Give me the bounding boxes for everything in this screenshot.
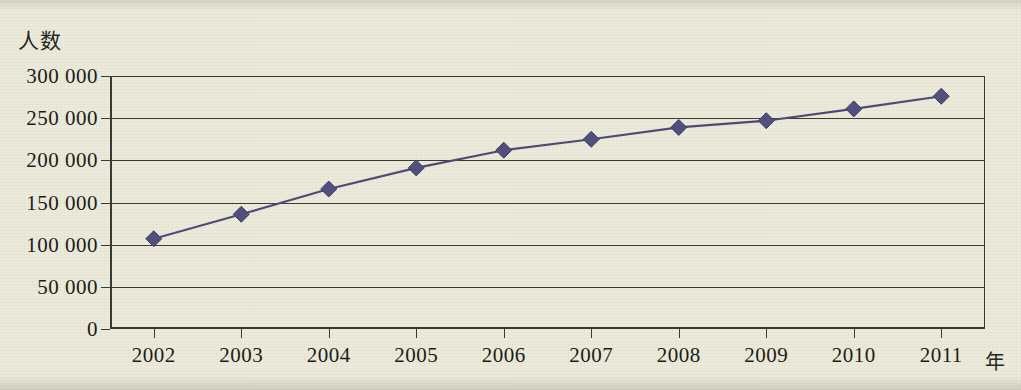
x-axis-label: 2010 <box>832 343 876 368</box>
data-point-marker <box>321 181 337 197</box>
y-axis-label: 50 000 <box>37 274 98 299</box>
data-point-marker <box>846 101 862 117</box>
y-axis-label: 0 <box>87 317 98 342</box>
x-axis-label: 2006 <box>482 343 526 368</box>
chart-page: 人数 年 050 000100 000150 000200 000250 000… <box>0 0 1021 390</box>
y-axis-label: 300 000 <box>26 64 98 89</box>
y-axis-tick <box>101 203 110 204</box>
x-axis-tick <box>854 329 855 338</box>
x-axis-label: 2002 <box>132 343 176 368</box>
data-point-marker <box>496 142 512 158</box>
data-point-marker <box>933 88 949 104</box>
x-axis-tick <box>679 329 680 338</box>
y-axis-tick <box>101 118 110 119</box>
y-axis-label: 100 000 <box>26 232 98 257</box>
x-axis-label: 2003 <box>219 343 263 368</box>
x-axis-tick <box>416 329 417 338</box>
y-axis-tick <box>101 329 110 330</box>
y-axis-tick <box>101 287 110 288</box>
x-axis-tick <box>504 329 505 338</box>
x-axis-label: 2004 <box>307 343 351 368</box>
y-axis-title: 人数 <box>18 24 62 54</box>
x-axis-tick <box>154 329 155 338</box>
data-point-marker <box>233 206 249 222</box>
y-axis-tick <box>101 160 110 161</box>
x-axis-label: 2007 <box>569 343 613 368</box>
x-axis-label: 2009 <box>744 343 788 368</box>
data-point-marker <box>146 231 162 247</box>
data-series <box>110 76 985 329</box>
y-axis-label: 150 000 <box>26 190 98 215</box>
plot-area: 050 000100 000150 000200 000250 000300 0… <box>110 76 985 329</box>
x-axis-label: 2008 <box>657 343 701 368</box>
data-point-marker <box>408 160 424 176</box>
x-axis-tick <box>329 329 330 338</box>
y-axis-label: 250 000 <box>26 106 98 131</box>
x-axis-tick <box>241 329 242 338</box>
data-point-marker <box>671 119 687 135</box>
x-axis-title: 年 <box>985 346 1006 375</box>
x-axis-label: 2005 <box>394 343 438 368</box>
y-axis-tick <box>101 245 110 246</box>
series-line <box>154 96 942 239</box>
x-axis-tick <box>591 329 592 338</box>
data-point-marker <box>758 113 774 129</box>
x-axis-tick <box>941 329 942 338</box>
x-axis-label: 2011 <box>920 343 963 368</box>
y-axis-label: 200 000 <box>26 148 98 173</box>
data-point-marker <box>583 131 599 147</box>
x-axis-tick <box>766 329 767 338</box>
y-axis-tick <box>101 76 110 77</box>
